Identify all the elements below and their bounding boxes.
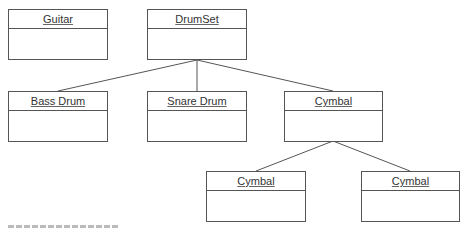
- class-name: Snare Drum: [167, 95, 226, 107]
- class-bass-drum[interactable]: Bass Drum: [8, 91, 108, 142]
- class-name: Cymbal: [237, 175, 274, 187]
- class-guitar[interactable]: Guitar: [8, 9, 108, 60]
- class-cymbal-child-2[interactable]: Cymbal: [361, 171, 460, 222]
- class-cymbal-child-1[interactable]: Cymbal: [206, 171, 306, 222]
- class-name: Guitar: [43, 13, 73, 25]
- class-name: Cymbal: [315, 95, 352, 107]
- class-name: Cymbal: [392, 175, 429, 187]
- class-name: DrumSet: [175, 13, 218, 25]
- class-name: Bass Drum: [31, 95, 85, 107]
- class-drumset[interactable]: DrumSet: [147, 9, 247, 60]
- figure-caption-clipped: [8, 223, 208, 230]
- clipped-caption-text: [8, 225, 118, 228]
- class-cymbal[interactable]: Cymbal: [284, 91, 383, 142]
- class-snare-drum[interactable]: Snare Drum: [147, 91, 247, 142]
- uml-diagram: Guitar DrumSet Bass Drum Snare Drum Cymb…: [0, 0, 465, 230]
